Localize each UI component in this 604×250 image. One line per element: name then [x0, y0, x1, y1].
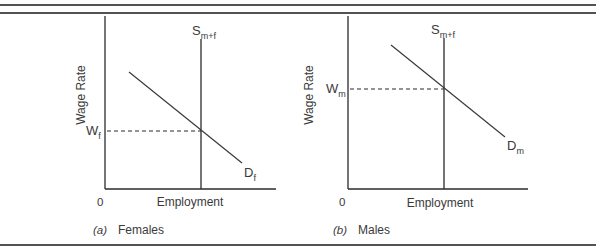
demand-label: Df	[244, 165, 256, 183]
y-axis-label: Wage Rate	[74, 65, 88, 125]
y-axis-label: Wage Rate	[302, 65, 316, 125]
wage-label: Wf	[86, 123, 101, 141]
panel-females: Wage Rate Sm+f Wf Df 0 Employment (a) Fe…	[74, 16, 276, 237]
x-axis-label: Employment	[407, 196, 474, 210]
demand-label: Dm	[507, 138, 524, 156]
panel-caption: Males	[358, 223, 390, 237]
x-axis-label: Employment	[157, 195, 224, 209]
figure: Wage Rate Sm+f Wf Df 0 Employment (a) Fe…	[0, 0, 604, 250]
demand-curve	[129, 72, 242, 163]
supply-label: Sm+f	[192, 23, 216, 41]
panel-caption: Females	[118, 223, 164, 237]
wage-label: Wm	[326, 81, 346, 99]
origin-label: 0	[97, 196, 103, 208]
origin-label: 0	[339, 196, 345, 208]
panel-males: Wage Rate Sm+f Wm Dm 0 Employment (b) Ma…	[302, 16, 528, 237]
panel-letter: (b)	[333, 224, 347, 236]
panel-letter: (a)	[93, 224, 107, 236]
demand-curve	[391, 45, 505, 137]
supply-label: Sm+f	[431, 22, 455, 40]
